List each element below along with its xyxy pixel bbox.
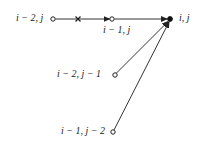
- label-im2-jm1: i − 2, j − 1: [57, 68, 101, 80]
- node-im2-j-icon: [51, 17, 55, 21]
- edge-im1jm2-to-ij: [114, 22, 169, 130]
- node-im1-jm2-icon: [111, 130, 115, 134]
- label-im1-j: i − 1, j: [103, 24, 130, 36]
- label-im2-j: i − 2, j: [16, 12, 43, 24]
- node-i-j-icon: [168, 17, 173, 22]
- label-i-j: i, j: [179, 12, 190, 24]
- node-im2-jm1-icon: [113, 73, 117, 77]
- label-im1-jm2: i − 1, j − 2: [61, 125, 105, 137]
- node-im1-j-icon: [110, 17, 114, 21]
